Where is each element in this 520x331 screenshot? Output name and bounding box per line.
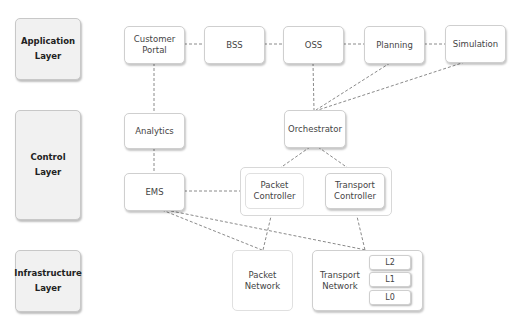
orchestrator-label: Orchestrator [288, 124, 342, 135]
transport-network-label: Transport Network [320, 270, 360, 292]
oss-node: OSS [283, 26, 344, 64]
planning-node: Planning [364, 26, 425, 64]
customer-portal-label: Customer Portal [134, 34, 175, 56]
l1-label: L1 [385, 275, 395, 284]
packet-controller-node: Packet Controller [245, 173, 304, 209]
l0-label: L0 [385, 293, 395, 302]
packet-controller-label: Packet Controller [254, 180, 296, 202]
transport-layer-l0: L0 [369, 290, 411, 305]
l2-label: L2 [385, 258, 395, 267]
link-simulation-orchestrator [318, 62, 465, 110]
planning-label: Planning [376, 40, 413, 51]
transport-controller-node: Transport Controller [325, 173, 385, 209]
orchestrator-node: Orchestrator [284, 110, 346, 148]
link-oss-orchestrator [313, 63, 314, 110]
customer-portal-node: Customer Portal [124, 26, 185, 64]
analytics-node: Analytics [124, 113, 185, 149]
bss-label: BSS [226, 40, 242, 51]
oss-label: OSS [305, 40, 322, 51]
ems-label: EMS [145, 187, 163, 198]
transport-layer-l1: L1 [369, 272, 411, 287]
link-planning-orchestrator [316, 63, 390, 110]
packet-network-label: Packet Network [245, 270, 281, 292]
analytics-label: Analytics [135, 126, 174, 137]
link-ems-transport-network [166, 210, 366, 250]
application-layer-label: Application Layer [15, 18, 81, 80]
infrastructure-layer-label: Infrastructure Layer [15, 250, 81, 312]
ems-node: EMS [124, 173, 185, 211]
simulation-node: Simulation [445, 25, 506, 63]
control-layer-label: Control Layer [15, 110, 81, 220]
simulation-label: Simulation [453, 39, 498, 50]
control-layer-text: Control Layer [30, 150, 65, 180]
application-layer-text: Application Layer [21, 34, 75, 64]
link-ems-packet-network [162, 210, 262, 250]
infrastructure-layer-text: Infrastructure Layer [14, 266, 81, 296]
transport-layer-l2: L2 [369, 255, 411, 270]
transport-controller-label: Transport Controller [334, 180, 376, 202]
packet-network-node: Packet Network [232, 250, 293, 311]
bss-node: BSS [204, 26, 265, 64]
